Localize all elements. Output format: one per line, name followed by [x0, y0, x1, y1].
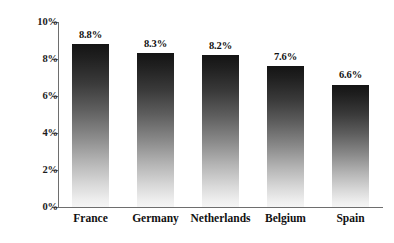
y-axis-tick-label: 2% [12, 165, 58, 176]
y-axis-tick-label: 0% [12, 202, 58, 213]
y-axis-tick-label: 8% [12, 54, 58, 65]
bar-series: 8.8%8.3%8.2%7.6%6.6% [58, 22, 383, 207]
bar-value-label: 8.8% [58, 30, 123, 41]
x-axis-category-label: Spain [318, 212, 383, 226]
bar[interactable] [267, 66, 304, 207]
bar-value-label: 8.2% [188, 41, 253, 52]
bar-value-label: 6.6% [318, 70, 383, 81]
x-axis-category-label: Netherlands [188, 212, 253, 226]
y-axis-tick-label: 10% [12, 17, 58, 28]
bar-slot: 8.2% [202, 22, 239, 207]
bar-value-label: 7.6% [253, 52, 318, 63]
x-axis-category-label: France [58, 212, 123, 226]
x-axis-category-label: Germany [123, 212, 188, 226]
bar[interactable] [202, 55, 239, 207]
bar-slot: 8.8% [72, 22, 109, 207]
bar[interactable] [332, 85, 369, 207]
y-axis-tick-label: 6% [12, 91, 58, 102]
bar-slot: 7.6% [267, 22, 304, 207]
bar-value-label: 8.3% [123, 39, 188, 50]
bar[interactable] [137, 53, 174, 207]
x-axis-line [58, 207, 383, 208]
bar-slot: 6.6% [332, 22, 369, 207]
x-axis-category-label: Belgium [253, 212, 318, 226]
bar-chart: 0%2%4%6%8%10% 8.8%8.3%8.2%7.6%6.6% Franc… [0, 0, 394, 243]
bar-slot: 8.3% [137, 22, 174, 207]
y-axis-tick-label: 4% [12, 128, 58, 139]
x-axis-category-labels: FranceGermanyNetherlandsBelgiumSpain [58, 210, 383, 232]
bar[interactable] [72, 44, 109, 207]
